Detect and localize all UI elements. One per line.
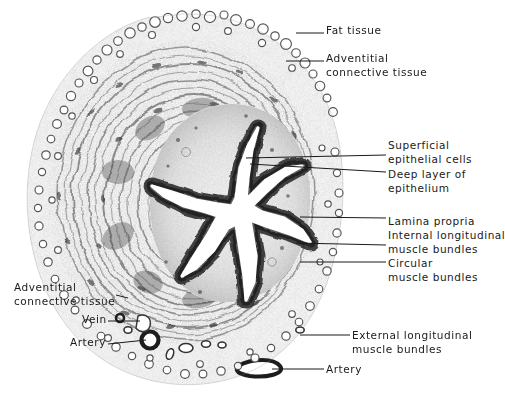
- label-artery-bottom: Artery: [326, 363, 362, 377]
- label-lamina-propria: Lamina propria: [388, 215, 475, 229]
- label-superficial-epithelial-cells: Superficial epithelial cells: [388, 139, 472, 166]
- label-circular-muscle-bundles: Circular muscle bundles: [388, 257, 478, 284]
- artery-bottom-vessel: [237, 360, 281, 377]
- vein-vessel: [136, 315, 150, 331]
- label-external-longitudinal-muscle-bundles: External longitudinal muscle bundles: [352, 329, 472, 356]
- label-fat-tissue: Fat tissue: [326, 24, 382, 38]
- label-deep-layer-of-epithelium: Deep layer of epithelium: [388, 168, 466, 195]
- label-adventitial-connective-tissue-left: Adventitial connective tissue: [14, 281, 115, 308]
- label-internal-longitudinal-muscle-bundles: Internal longitudinal muscle bundles: [388, 229, 505, 256]
- label-vein: Vein: [82, 313, 107, 327]
- label-artery-left: Artery: [70, 336, 106, 350]
- label-adventitial-connective-tissue-top: Adventitial connective tissue: [326, 52, 427, 79]
